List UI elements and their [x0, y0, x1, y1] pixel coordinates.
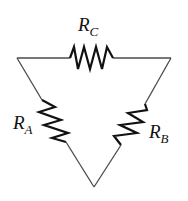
delta-circuit-diagram: RC RA RB: [0, 0, 188, 201]
label-rb: RB: [148, 121, 169, 146]
label-rc: RC: [77, 14, 99, 39]
resistor-rb-icon: [114, 104, 147, 145]
resistor-ra-icon: [39, 100, 68, 142]
wire-left-upper: [17, 58, 42, 100]
wire-right-lower: [94, 145, 121, 187]
label-ra: RA: [12, 112, 33, 137]
wire-right-upper: [145, 58, 171, 104]
resistor-rc-icon: [70, 47, 113, 69]
wire-left-lower: [66, 142, 94, 187]
